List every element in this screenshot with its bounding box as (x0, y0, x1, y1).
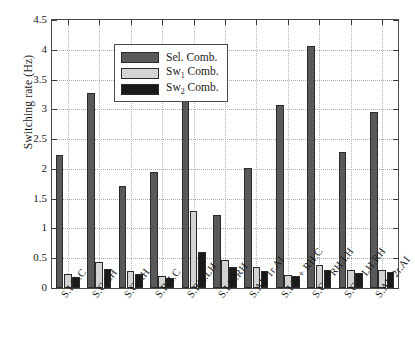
legend-label-sw1-comb: Sw1 Comb. (166, 65, 219, 80)
y-tick-label: 3.5 (7, 74, 47, 84)
legend-item: Sel. Comb. (121, 49, 219, 65)
y-tick-label: 1 (7, 222, 47, 232)
legend-label-sel-comb: Sel. Comb. (166, 51, 217, 63)
bar (119, 186, 127, 288)
legend: Sel. Comb. Sw1 Comb. Sw2 Comb. (114, 44, 228, 102)
bar (213, 215, 221, 288)
y-tick-label: 2.5 (7, 133, 47, 143)
bar (56, 155, 64, 288)
y-axis-tick (393, 288, 398, 289)
legend-item: Sw2 Comb. (121, 81, 219, 97)
legend-swatch-sel-comb (121, 52, 159, 63)
bar-chart-figure: Switching rate (Hz) Sel. Comb. Sw1 Comb.… (0, 0, 415, 357)
bar (150, 172, 158, 288)
bar (87, 93, 95, 288)
bar-group (56, 20, 80, 288)
bar-group (87, 20, 111, 288)
y-tick-label: 4.5 (7, 14, 47, 24)
legend-label-sw2-comb: Sw2 Comb. (166, 81, 219, 96)
y-tick-label: 3 (7, 103, 47, 113)
legend-item: Sw1 Comb. (121, 65, 219, 81)
legend-swatch-sw2-comb (121, 84, 159, 95)
y-tick-label: 4 (7, 44, 47, 54)
bar-group (276, 20, 300, 288)
y-tick-label: 2 (7, 163, 47, 173)
y-tick-label: 0 (7, 282, 47, 292)
bar-group (244, 20, 268, 288)
legend-swatch-sw1-comb (121, 68, 159, 79)
y-tick-label: 1.5 (7, 193, 47, 203)
bar (190, 211, 198, 288)
bar (182, 98, 190, 288)
y-axis-tick (52, 288, 57, 289)
y-tick-label: 0.5 (7, 252, 47, 262)
